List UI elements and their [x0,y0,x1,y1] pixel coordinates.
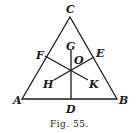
label-f: F [35,49,45,62]
label-b: B [118,94,128,107]
label-e: E [95,47,105,60]
label-c: C [66,3,75,16]
label-k: K [88,78,99,91]
label-h: H [42,78,54,91]
label-g: G [66,40,75,53]
label-d: D [65,103,76,116]
label-a: A [12,94,22,107]
triangle-diagram: C A B D E F G O H K Fig. 55. [0,0,136,133]
figure-caption: Fig. 55. [50,119,89,129]
label-o: O [74,54,84,67]
